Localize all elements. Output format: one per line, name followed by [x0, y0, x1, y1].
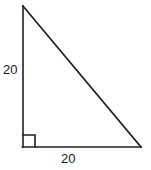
geometry-figure: 20 20 — [0, 0, 151, 170]
hypotenuse-line — [23, 6, 141, 147]
right-triangle-shape — [0, 0, 151, 170]
right-angle-icon — [23, 135, 35, 147]
horizontal-leg-label: 20 — [61, 152, 75, 165]
vertical-leg-label: 20 — [3, 63, 17, 76]
